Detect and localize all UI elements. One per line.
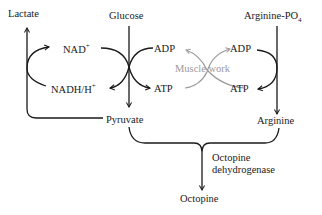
enzyme-label-line1: Octopine — [212, 153, 251, 164]
nad-to-nadh-arrow — [101, 48, 129, 88]
nadh-superscript: + — [92, 82, 96, 90]
nad-superscript: + — [86, 42, 90, 50]
octopine-label: Octopine — [180, 194, 219, 205]
octopine-brace — [129, 127, 279, 152]
atp-right-label: ATP — [230, 84, 249, 95]
pyruvate-to-lactate-arrow — [27, 28, 103, 118]
glucose-label: Glucose — [109, 11, 143, 22]
adp-to-atp-right-arrow — [257, 50, 277, 89]
nadh-text: NADH/H — [51, 84, 92, 95]
adp-left-label: ADP — [154, 44, 175, 55]
muscle-work-label: Muscle work — [175, 64, 230, 75]
nadh-label: NADH/H+ — [51, 83, 96, 95]
lactate-label: Lactate — [8, 9, 39, 20]
enzyme-label-line2: dehydrogenase — [212, 165, 275, 176]
nad-text: NAD — [63, 44, 86, 55]
atp-left-label: ATP — [154, 84, 173, 95]
adp-to-atp-left-arrow — [129, 48, 153, 88]
adp-right-label: ADP — [230, 44, 251, 55]
pathway-arrows — [0, 0, 322, 215]
nad-label: NAD+ — [63, 43, 90, 55]
pyruvate-label: Pyruvate — [106, 115, 143, 126]
arginine-po4-text: Arginine-PO — [244, 10, 298, 21]
arginine-label: Arginine — [257, 116, 294, 127]
arginine-po4-subscript: 4 — [298, 16, 302, 24]
arginine-po4-label: Arginine-PO4 — [244, 11, 302, 24]
nad-loop-arrow — [27, 47, 49, 86]
